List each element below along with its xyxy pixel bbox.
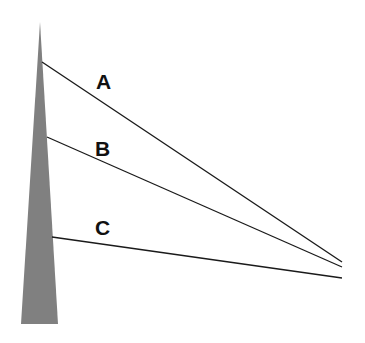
cable-line-a [42,62,342,262]
label-c: C [95,216,110,239]
cable-line-c [52,237,342,278]
cable-line-b [47,137,342,267]
label-a: A [96,70,111,93]
pole [21,22,58,324]
diagram-canvas: A B C [0,0,365,343]
diagram-svg: A B C [0,0,365,343]
label-b: B [95,137,110,160]
